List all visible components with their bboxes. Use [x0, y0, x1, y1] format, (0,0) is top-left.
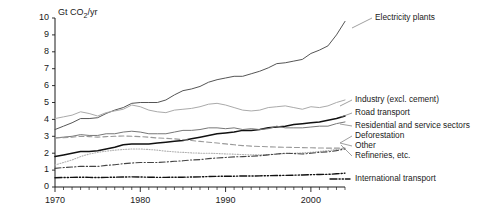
y-axis-tick-label: 8 — [44, 46, 49, 56]
y-axis-tick-label: 7 — [44, 63, 49, 73]
chart-container: 0123456789101970198019902000Gt CO2/yrEle… — [0, 0, 487, 222]
y-axis-unit-label: Gt CO2/yr — [58, 7, 97, 19]
legend-leader-line — [341, 113, 352, 117]
legend-leader-line — [352, 18, 372, 28]
y-axis-tick-label: 5 — [44, 97, 49, 107]
y-axis-tick-label: 6 — [44, 80, 49, 90]
x-axis-tick-label: 2000 — [301, 195, 321, 205]
legend-label-residential-and-service-sectors: Residential and service sectors — [355, 120, 470, 130]
x-axis-tick-label: 1980 — [130, 195, 150, 205]
legend-leader-line — [340, 136, 352, 143]
series-line-international-transport — [55, 173, 345, 178]
legend-label-industry-excl-cement: Industry (excl. cement) — [355, 94, 439, 104]
legend-label-deforestation: Deforestation — [355, 130, 405, 140]
x-axis-tick-label: 1990 — [216, 195, 236, 205]
legend-label-other: Other — [355, 140, 376, 150]
y-axis-tick-label: 1 — [44, 164, 49, 174]
y-axis-tick-label: 3 — [44, 131, 49, 141]
y-axis-tick-label: 9 — [44, 29, 49, 39]
y-axis-tick-label: 4 — [44, 114, 49, 124]
x-axis-tick-label: 1970 — [45, 195, 65, 205]
legend-leader-line — [340, 124, 352, 126]
y-axis-tick-label: 10 — [39, 12, 49, 22]
legend-leader-line — [341, 145, 352, 156]
y-axis-tick-label: 0 — [44, 181, 49, 191]
series-line-electricity-plants — [55, 21, 345, 129]
legend-label-electricity-plants: Electricity plants — [375, 12, 435, 22]
legend-label-refineries-etc: Refineries, etc. — [355, 150, 410, 160]
y-axis-tick-label: 2 — [44, 148, 49, 158]
series-line-industry-excl-cement — [55, 100, 345, 119]
co2-emissions-line-chart: 0123456789101970198019902000Gt CO2/yrEle… — [0, 0, 487, 222]
legend-label-international-transport: International transport — [355, 173, 436, 183]
series-line-road-transport — [55, 116, 345, 157]
legend-label-road-transport: Road transport — [355, 107, 411, 117]
